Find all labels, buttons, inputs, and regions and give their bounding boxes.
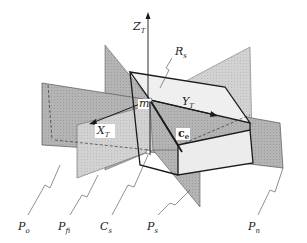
svg-text:Cs: Cs: [100, 220, 112, 235]
label-m: m: [138, 97, 149, 110]
label-pn: Pn: [247, 220, 260, 235]
label-cs: Cs: [100, 220, 112, 235]
label-po: Po: [17, 220, 30, 235]
label-pfi: Pfi: [57, 220, 70, 235]
svg-text:ZT: ZT: [132, 20, 147, 35]
leader-pn: [258, 168, 283, 215]
leader-po: [28, 165, 60, 215]
svg-text:Pn: Pn: [247, 220, 260, 235]
svg-text:m: m: [139, 97, 149, 110]
label-ps: Ps: [146, 220, 158, 235]
z-axis-arrow-icon: [146, 12, 151, 19]
label-x-axis: XT: [95, 124, 115, 139]
svg-text:Rs: Rs: [174, 45, 187, 60]
label-z-axis: ZT: [132, 20, 147, 35]
geometry-diagram: ZT Rs YT m XT ce Po Pfi Cs Ps Pn: [0, 0, 307, 243]
label-rs: Rs: [174, 45, 187, 60]
svg-text:Ps: Ps: [146, 220, 158, 235]
leader-pfi: [70, 175, 98, 215]
label-ce: ce: [176, 127, 190, 141]
svg-text:Po: Po: [17, 220, 30, 235]
svg-text:Pfi: Pfi: [57, 220, 70, 235]
leader-ps: [158, 190, 190, 215]
point-origin: [146, 150, 150, 154]
